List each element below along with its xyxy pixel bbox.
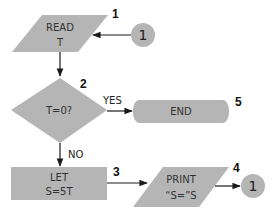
end-label: END: [170, 106, 192, 117]
step-number-2: 2: [80, 77, 87, 91]
read-label-line1: READ: [46, 22, 74, 33]
let-label-line2: S=5T: [45, 186, 73, 197]
flowchart-diagram: READ T 1 1 T=0? 2 YES END 5 NO LET S=5T …: [0, 0, 274, 212]
print-label-line1: PRINT: [166, 174, 196, 185]
read-label-line2: T: [56, 37, 64, 48]
let-label-line1: LET: [50, 172, 69, 183]
step-number-5: 5: [235, 95, 242, 109]
let-step: LET S=5T 3: [11, 165, 120, 200]
connector-in: 1: [131, 23, 155, 47]
print-step: PRINT “S=”S 4: [133, 161, 240, 207]
read-step: READ T 1: [12, 7, 119, 52]
decision-step: T=0? 2: [11, 77, 107, 143]
print-label-line2: “S=”S: [165, 190, 196, 201]
connector-in-label: 1: [139, 27, 148, 43]
step-number-1: 1: [112, 7, 119, 21]
connector-out-label: 1: [249, 178, 258, 194]
connector-out: 1: [241, 174, 265, 198]
yes-branch-label: YES: [102, 95, 122, 106]
no-branch-label: NO: [68, 149, 83, 160]
print-parallelogram: [133, 167, 229, 207]
step-number-4: 4: [233, 161, 240, 175]
decision-label: T=0?: [45, 105, 72, 116]
end-step: END 5: [133, 95, 242, 123]
step-number-3: 3: [113, 165, 120, 179]
